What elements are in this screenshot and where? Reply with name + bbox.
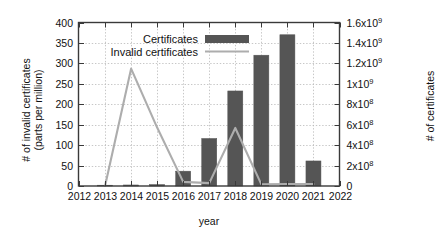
legend-swatch-certificates bbox=[205, 35, 249, 43]
chart-figure: # of invalid certificates (parts per mil… bbox=[0, 0, 443, 237]
bar-2020 bbox=[280, 35, 295, 186]
bar-2019 bbox=[254, 55, 269, 186]
y-axis-right-tick-7: 1.4x109 bbox=[347, 38, 407, 49]
y-axis-right-tick-0: 0 bbox=[347, 181, 407, 192]
bar-2017 bbox=[202, 138, 217, 186]
y-axis-right-tick-8: 1.6x109 bbox=[347, 18, 407, 29]
y-axis-left-tick-100: 100 bbox=[37, 140, 73, 151]
y-axis-right-tick-6: 1.2x109 bbox=[347, 58, 407, 69]
y-axis-left-tick-150: 150 bbox=[37, 120, 73, 131]
legend-label-certificates: Certificates bbox=[60, 33, 198, 45]
x-axis-tick-2022: 2022 bbox=[324, 191, 358, 202]
y-axis-right-tick-4: 8x108 bbox=[347, 99, 407, 110]
y-axis-left-tick-250: 250 bbox=[37, 79, 73, 90]
y-axis-right-tick-5: 1x109 bbox=[347, 79, 407, 90]
y-axis-left-tick-50: 50 bbox=[37, 161, 73, 172]
y-axis-left-tick-300: 300 bbox=[37, 58, 73, 69]
y-axis-right-tick-1: 2x108 bbox=[347, 161, 407, 172]
x-axis-title: year bbox=[78, 215, 340, 227]
y-axis-right-title: # of certificates bbox=[424, 31, 436, 181]
legend-label-invalid-certificates: Invalid certificates bbox=[40, 46, 198, 58]
y-axis-left-tick-200: 200 bbox=[37, 99, 73, 110]
y-axis-right-tick-2: 4x108 bbox=[347, 140, 407, 151]
y-axis-right-tick-3: 6x108 bbox=[347, 120, 407, 131]
y-axis-left-tick-400: 400 bbox=[37, 18, 73, 29]
